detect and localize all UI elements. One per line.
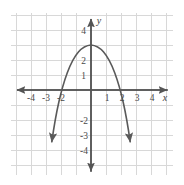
y-tick-label-neg4: -4 [80, 146, 88, 156]
x-tick-label-2: 2 [120, 93, 125, 103]
y-axis-label: y [96, 15, 102, 26]
y-tick-label-neg3: -3 [80, 131, 88, 141]
y-tick-label-4: 4 [81, 26, 86, 36]
y-tick-label-2: 2 [81, 56, 86, 66]
axis-lines [17, 19, 168, 172]
x-tick-label-neg4: -4 [27, 93, 35, 103]
x-axis-label: x [162, 92, 168, 103]
y-tick-label-1: 1 [81, 71, 86, 81]
x-tick-label-4: 4 [150, 93, 155, 103]
x-tick-label-3: 3 [135, 93, 140, 103]
x-tick-label-neg3: -3 [42, 93, 50, 103]
y-tick-label-neg2: -2 [80, 116, 88, 126]
x-tick-label-1: 1 [105, 93, 110, 103]
graph-figure: -4 -3 -2 1 2 3 4 4 2 1 -2 -3 -4 y x [0, 0, 184, 185]
coordinate-plane-svg: -4 -3 -2 1 2 3 4 4 2 1 -2 -3 -4 y x [0, 0, 184, 185]
x-tick-label-neg2: -2 [57, 93, 65, 103]
